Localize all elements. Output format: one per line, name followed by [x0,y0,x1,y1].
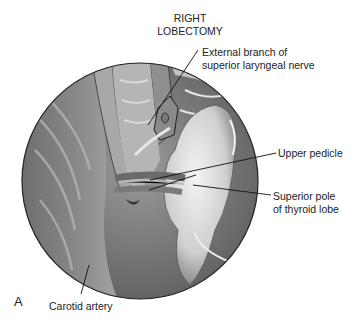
title-line-1: RIGHT [148,12,232,25]
label-carotid-artery: Carotid artery [49,300,113,313]
label-line: External branch of [202,46,315,59]
label-external-branch: External branch of superior laryngeal ne… [202,46,315,71]
label-upper-pedicle: Upper pedicle [278,147,343,160]
label-superior-pole: Superior pole of thyroid lobe [273,190,339,215]
label-line: superior laryngeal nerve [202,59,315,72]
operative-field [20,60,260,305]
label-line: Superior pole [273,190,339,203]
title-line-2: LOBECTOMY [148,25,232,38]
label-line: of thyroid lobe [273,203,339,216]
figure-title: RIGHT LOBECTOMY [148,12,232,37]
panel-letter: A [14,294,23,309]
